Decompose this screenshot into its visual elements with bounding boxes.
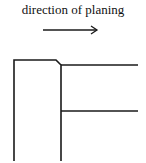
- tool-outline: [14, 60, 61, 161]
- planing-diagram: [0, 0, 146, 163]
- direction-arrow: [43, 26, 97, 34]
- workpiece-surfaces: [61, 65, 138, 111]
